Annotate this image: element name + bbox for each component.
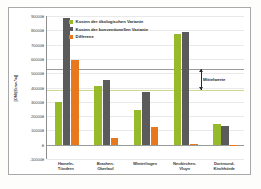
bar xyxy=(230,145,237,146)
bar-group xyxy=(205,16,245,159)
chart-figure: [DM/(Einw.*a)] 9000008000007000006000005… xyxy=(0,0,261,189)
legend-item: Kosten der ökologischen Variante xyxy=(69,18,148,26)
y-tick-mark xyxy=(42,159,44,160)
y-tick-mark xyxy=(42,145,44,146)
x-tick-label: Winterlingen xyxy=(125,161,165,166)
legend-item: Differenz xyxy=(69,33,148,41)
legend-label: Differenz xyxy=(76,34,94,39)
bar xyxy=(174,34,181,145)
plot-area: Mittelwerte Kosten der ökologischen Vari… xyxy=(46,16,244,159)
y-tick-mark xyxy=(42,30,44,31)
legend-swatch-icon xyxy=(69,27,73,31)
x-tick-label: Neukirchen-Vluyn xyxy=(165,161,205,171)
x-tick-label: Dortmund-Kirchhörde xyxy=(204,161,244,171)
bar xyxy=(190,144,197,145)
legend-label: Kosten der konventionellen Variante xyxy=(76,27,149,32)
annotation-label: Mittelwerte xyxy=(203,77,225,82)
bar xyxy=(151,127,158,145)
x-axis-category-labels: Hameln-TündernBrachen-OberlaufWinterling… xyxy=(46,161,244,177)
y-tick-mark xyxy=(42,45,44,46)
legend-item: Kosten der konventionellen Variante xyxy=(69,26,148,34)
x-tick-label: Brachen-Oberlauf xyxy=(86,161,126,171)
bar xyxy=(213,124,220,144)
chart-legend: Kosten der ökologischen VarianteKosten d… xyxy=(69,18,148,41)
y-tick-mark xyxy=(42,73,44,74)
y-tick-mark xyxy=(42,130,44,131)
bar xyxy=(55,102,62,145)
arrow-down-icon xyxy=(199,87,203,90)
x-tick-label: Hameln-Tündern xyxy=(46,161,86,171)
bar xyxy=(71,60,78,144)
bar xyxy=(111,138,118,145)
y-axis-tick-labels: 9000008000007000006000005000004000003000… xyxy=(0,16,44,159)
bar xyxy=(142,92,149,144)
bar xyxy=(94,86,101,145)
y-tick-mark xyxy=(42,88,44,89)
y-tick-mark xyxy=(42,16,44,17)
gridline xyxy=(47,159,244,160)
y-tick-mark xyxy=(42,59,44,60)
bar xyxy=(134,110,141,144)
y-tick-mark xyxy=(42,116,44,117)
legend-label: Kosten der ökologischen Variante xyxy=(76,19,144,24)
legend-swatch-icon xyxy=(69,20,73,24)
arrow-up-icon xyxy=(199,69,203,72)
y-tick-mark xyxy=(42,102,44,103)
bar xyxy=(221,126,228,145)
legend-swatch-icon xyxy=(69,35,73,39)
bar xyxy=(182,32,189,144)
bar xyxy=(103,80,110,145)
